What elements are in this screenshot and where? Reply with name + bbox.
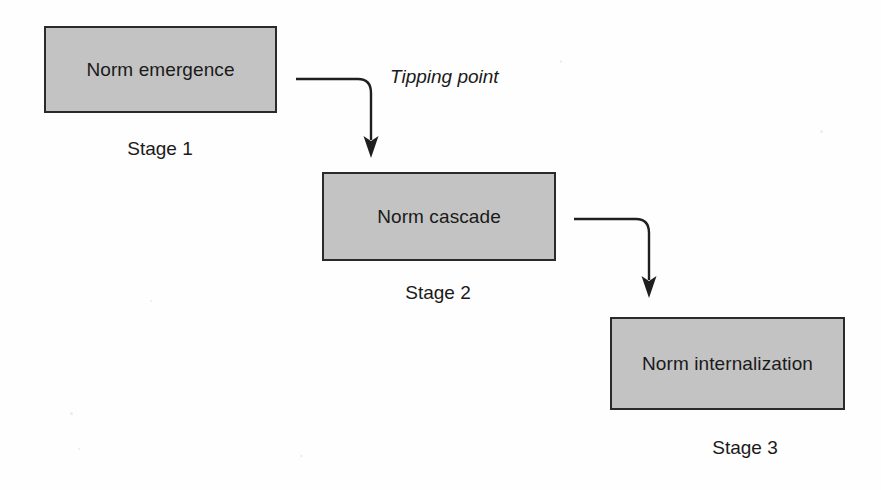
connector-2-arrowhead [642, 276, 657, 298]
diagram-canvas: Norm emergence Stage 1 Tipping point Nor… [0, 0, 881, 490]
scan-speck [300, 455, 303, 457]
node-norm-internalization[interactable]: Norm internalization [610, 317, 845, 410]
node-label: Norm emergence [86, 59, 234, 81]
stage-2-caption: Stage 2 [405, 282, 471, 304]
scan-speck [820, 130, 823, 133]
connector-1-label: Tipping point [390, 66, 499, 88]
connector-1-path [296, 79, 371, 140]
scan-speck [150, 300, 152, 302]
node-label: Norm internalization [642, 353, 813, 375]
scan-speck [560, 60, 562, 63]
node-norm-cascade[interactable]: Norm cascade [322, 172, 556, 261]
connector-2-path [574, 219, 649, 280]
node-label: Norm cascade [377, 206, 501, 228]
stage-1-caption: Stage 1 [127, 138, 193, 160]
stage-3-caption: Stage 3 [712, 437, 778, 459]
scan-speck [70, 412, 73, 415]
connector-1-arrowhead [364, 136, 379, 158]
scan-speck [78, 448, 80, 450]
node-norm-emergence[interactable]: Norm emergence [44, 26, 277, 113]
